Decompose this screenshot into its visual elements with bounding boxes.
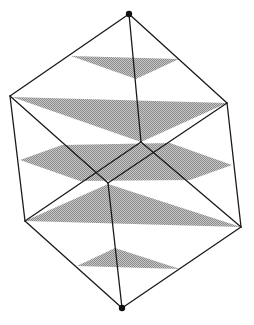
section-small-lower-triangle (77, 248, 180, 269)
edge-top-upper_left (10, 14, 129, 96)
cross-sections (12, 56, 241, 269)
edge-upper_left-lower_left (10, 96, 25, 221)
section-small-upper-triangle (71, 56, 179, 79)
vertex-dot-bottom (119, 305, 125, 311)
section-large-upper-triangle (12, 97, 227, 142)
section-middle-hexagon (20, 143, 232, 181)
cube-cross-section-diagram (0, 0, 254, 325)
vertex-dot-top (126, 11, 132, 17)
section-large-lower-triangle (25, 184, 241, 227)
